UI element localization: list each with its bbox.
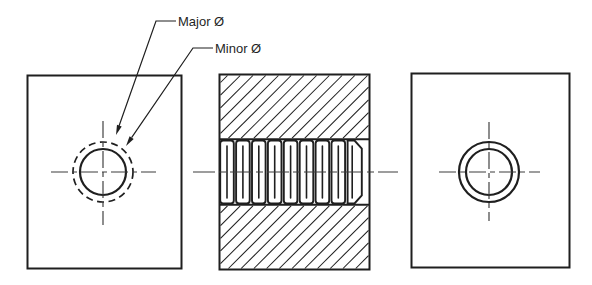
- hatch-line: [228, 76, 291, 139]
- hatch-line: [305, 76, 368, 139]
- hatch-line: [318, 87, 369, 138]
- major-leader-line: [119, 21, 176, 126]
- hatch-line: [221, 206, 279, 264]
- hatch-line: [292, 76, 355, 139]
- right-end-view: [412, 74, 570, 268]
- minor-leader-arrowhead: [126, 136, 134, 146]
- hatch-line: [267, 206, 330, 269]
- hatch-line: [241, 76, 304, 139]
- hatch-line: [254, 206, 317, 269]
- section-hatch-bottom: [221, 206, 369, 269]
- major-leader-arrowhead: [116, 125, 122, 135]
- hatch-line: [221, 76, 253, 108]
- hatch-line: [254, 76, 317, 139]
- hatch-line: [221, 206, 253, 238]
- hatch-line: [221, 76, 228, 83]
- minor-diameter-label: Minor Ø: [215, 41, 261, 56]
- hatch-line: [356, 256, 369, 269]
- diameter-callouts: Major Ø Minor Ø: [116, 14, 261, 146]
- drawing-canvas: Major Ø Minor Ø: [0, 0, 592, 285]
- engineering-drawing: Major Ø Minor Ø: [0, 0, 592, 285]
- section-view: [193, 75, 398, 270]
- hatch-line: [356, 125, 369, 138]
- hatch-line: [241, 206, 304, 269]
- hatch-line: [221, 206, 241, 226]
- minor-leader-line: [132, 48, 213, 138]
- hatch-line: [292, 206, 355, 269]
- right-view-outline: [412, 74, 570, 268]
- hatch-line: [279, 76, 342, 139]
- hatch-line: [221, 76, 241, 96]
- hatch-line: [343, 243, 369, 269]
- hatch-line: [318, 218, 369, 269]
- hatch-line: [343, 113, 369, 139]
- hatch-line: [267, 76, 330, 139]
- hatch-line: [221, 76, 279, 134]
- hatch-line: [221, 206, 228, 213]
- hatch-line: [221, 76, 266, 121]
- left-end-view: [28, 76, 182, 269]
- hatch-line: [228, 206, 291, 269]
- hatch-line: [221, 206, 266, 251]
- major-diameter-label: Major Ø: [178, 14, 224, 29]
- hatch-line: [305, 206, 368, 269]
- hatch-line: [279, 206, 342, 269]
- section-hatch-top: [221, 76, 369, 139]
